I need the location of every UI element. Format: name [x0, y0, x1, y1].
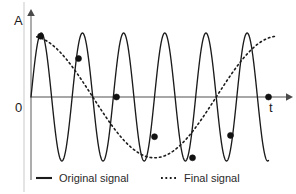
aliasing-figure: A t 0 Original signal Final signal	[0, 0, 296, 194]
y-axis-label: A	[14, 13, 23, 28]
x-axis-label: t	[269, 100, 273, 115]
sample-point	[152, 134, 158, 140]
sample-point	[114, 94, 120, 100]
signal-plot: A t 0 Original signal Final signal	[0, 0, 296, 194]
sample-point	[266, 94, 272, 100]
sample-point	[76, 56, 82, 62]
sample-point	[228, 132, 234, 138]
legend-label-original-signal: Original signal	[59, 172, 129, 184]
x-axis-arrowhead	[286, 93, 293, 101]
legend: Original signal Final signal	[36, 172, 240, 184]
sample-point	[190, 155, 196, 161]
sample-point	[38, 33, 44, 39]
legend-label-final-signal: Final signal	[184, 172, 240, 184]
axes-group: A t 0	[14, 9, 293, 180]
origin-label: 0	[15, 100, 22, 115]
y-axis-arrowhead	[27, 9, 35, 16]
